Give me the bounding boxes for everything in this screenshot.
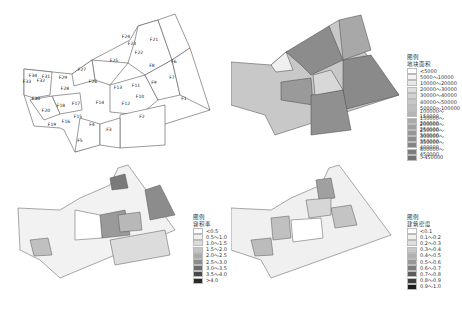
legend-swatch	[193, 271, 203, 277]
legend-label: 0.4～0.5	[420, 253, 441, 258]
legend-label: 0.6～0.7	[420, 266, 441, 271]
legend-item: 30000～40000	[407, 93, 462, 99]
legend-swatch	[407, 105, 417, 111]
legend-item: 2.0～2.5	[193, 253, 227, 259]
legend-label: 0.5～0.6	[420, 260, 441, 265]
legend-swatch	[407, 93, 417, 99]
legend-heading: 图例	[407, 215, 441, 221]
legend-swatch	[407, 253, 417, 259]
svg-text:F13: F13	[114, 85, 122, 90]
legend-subheading: 容积率	[193, 222, 227, 228]
svg-text:F5: F5	[77, 138, 83, 143]
map-panel-outline: F1 F2 F3 F4 F5 F6 F7 F8 F9 F10 F11 F12 F…	[0, 0, 231, 160]
legend-swatch	[407, 74, 417, 80]
svg-text:F1: F1	[181, 96, 187, 101]
legend-swatch	[407, 99, 417, 105]
legend-label: 0.9～1.0	[420, 284, 441, 289]
legend-swatch	[407, 271, 417, 277]
legend-swatch	[407, 149, 417, 155]
legend-heading: 图例	[407, 55, 462, 61]
svg-text:F30: F30	[32, 96, 40, 101]
svg-text:F26: F26	[89, 79, 97, 84]
svg-text:F33: F33	[23, 79, 31, 84]
svg-text:F15: F15	[74, 114, 82, 119]
legend-label: 2.5～3.0	[206, 260, 227, 265]
svg-text:F21: F21	[150, 37, 158, 42]
legend-swatch	[193, 234, 203, 240]
svg-text:F22: F22	[135, 50, 143, 55]
legend-label: 3.0～3.5	[206, 266, 227, 271]
svg-text:F18: F18	[57, 103, 65, 108]
legend-label: 2.0～2.5	[206, 253, 227, 258]
svg-text:F25: F25	[110, 58, 118, 63]
legend-swatch	[407, 228, 417, 234]
legend-swatch	[193, 247, 203, 253]
map-panel-floor-area-ratio: 图例 容积率 <0.50.5～1.01.0～1.51.5～2.02.0～2.52…	[0, 160, 231, 320]
legend-item: >4.0	[193, 278, 227, 284]
parcel-map-outline: F1 F2 F3 F4 F5 F6 F7 F8 F9 F10 F11 F12 F…	[0, 0, 231, 160]
legend-swatch	[407, 278, 417, 284]
svg-text:F3: F3	[106, 127, 112, 132]
legend-label: <0.1	[420, 229, 432, 234]
map-panel-building-density: 图例 建筑密度 <0.10.1～0.20.2～0.30.3～0.40.4～0.5…	[231, 160, 462, 320]
legend-parcel-area: 图例 地块面积 <50005000～1000010000～2000020000～…	[407, 55, 462, 161]
legend-swatch	[407, 265, 417, 271]
map-panel-parcel-area: 图例 地块面积 <50005000～1000010000～2000020000～…	[231, 0, 462, 160]
svg-text:F34: F34	[29, 73, 37, 78]
legend-swatch	[407, 247, 417, 253]
legend-floor-area-ratio: 图例 容积率 <0.50.5～1.01.0～1.51.5～2.02.0～2.52…	[193, 215, 227, 284]
legend-swatch	[407, 87, 417, 93]
svg-text:F9: F9	[151, 80, 157, 85]
legend-item: 0.4～0.5	[407, 253, 441, 259]
parcel-map-far	[0, 160, 180, 320]
legend-swatch	[193, 228, 203, 234]
svg-text:F28: F28	[61, 86, 69, 91]
legend-swatch	[407, 130, 417, 136]
svg-text:F4: F4	[89, 122, 95, 127]
svg-text:F6: F6	[171, 59, 177, 64]
legend-swatch	[193, 240, 203, 246]
legend-swatch	[407, 284, 417, 290]
svg-text:F2: F2	[139, 114, 145, 119]
svg-text:F8: F8	[149, 63, 155, 68]
svg-text:F32: F32	[37, 78, 45, 83]
legend-label: <5000	[420, 69, 437, 74]
legend-swatch	[193, 265, 203, 271]
svg-text:F17: F17	[72, 101, 80, 106]
legend-building-density: 图例 建筑密度 <0.10.1～0.20.2～0.30.3～0.40.4～0.5…	[407, 215, 441, 290]
svg-text:F7: F7	[169, 75, 175, 80]
svg-text:F27: F27	[78, 67, 86, 72]
legend-swatch	[407, 68, 417, 74]
legend-swatch	[407, 111, 417, 117]
legend-label: 30000～40000	[420, 93, 457, 98]
legend-swatch	[407, 136, 417, 142]
svg-text:F12: F12	[122, 101, 130, 106]
svg-text:F10: F10	[136, 94, 144, 99]
legend-swatch	[407, 80, 417, 86]
svg-text:F20: F20	[42, 108, 50, 113]
legend-label: >4.0	[206, 278, 218, 283]
legend-swatch	[193, 259, 203, 265]
legend-label: <0.5	[206, 229, 218, 234]
legend-item: 0.9～1.0	[407, 284, 441, 290]
legend-subheading: 建筑密度	[407, 222, 441, 228]
legend-swatch	[193, 278, 203, 284]
parcel-map-area	[231, 0, 406, 160]
legend-swatch	[407, 240, 417, 246]
legend-heading: 图例	[193, 215, 227, 221]
svg-text:F16: F16	[62, 119, 70, 124]
legend-subheading: 地块面积	[407, 62, 462, 68]
legend-label: 40000～50000	[420, 100, 457, 105]
legend-swatch	[407, 124, 417, 130]
legend-swatch	[407, 118, 417, 124]
svg-text:F11: F11	[132, 83, 140, 88]
legend-swatch	[407, 234, 417, 240]
svg-text:F19: F19	[48, 122, 56, 127]
parcel-map-density	[231, 160, 406, 320]
svg-text:F29: F29	[59, 75, 67, 80]
legend-swatch	[407, 259, 417, 265]
legend-swatch	[193, 253, 203, 259]
svg-text:F14: F14	[96, 100, 104, 105]
svg-text:F23: F23	[128, 41, 136, 46]
svg-text:F24: F24	[122, 34, 130, 39]
